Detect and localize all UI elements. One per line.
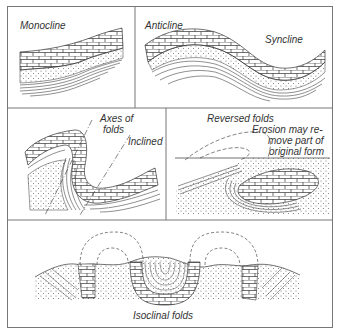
isoclinal-folds-panel: [35, 232, 300, 305]
label-monocline: Monocline: [20, 20, 66, 31]
label-anticline: Anticline: [145, 20, 183, 31]
label-erosion-1: Erosion may re-: [252, 124, 323, 135]
label-erosion-3: original form: [269, 146, 324, 157]
label-axes-of: Axes of: [100, 113, 133, 124]
label-isoclinal-folds: Isoclinal folds: [133, 310, 193, 321]
fold-axis-2: [80, 135, 130, 215]
label-syncline: Syncline: [265, 34, 303, 45]
geologic-folds-diagram: [0, 0, 339, 332]
eroded-fold-outline: [185, 132, 270, 160]
label-inclined: Inclined: [128, 136, 162, 147]
label-reversed-folds: Reversed folds: [207, 113, 274, 124]
label-erosion-2: move part of: [268, 135, 324, 146]
inclined-folds-panel: [25, 120, 160, 215]
monocline-panel: [20, 28, 123, 96]
label-folds: folds: [103, 124, 124, 135]
